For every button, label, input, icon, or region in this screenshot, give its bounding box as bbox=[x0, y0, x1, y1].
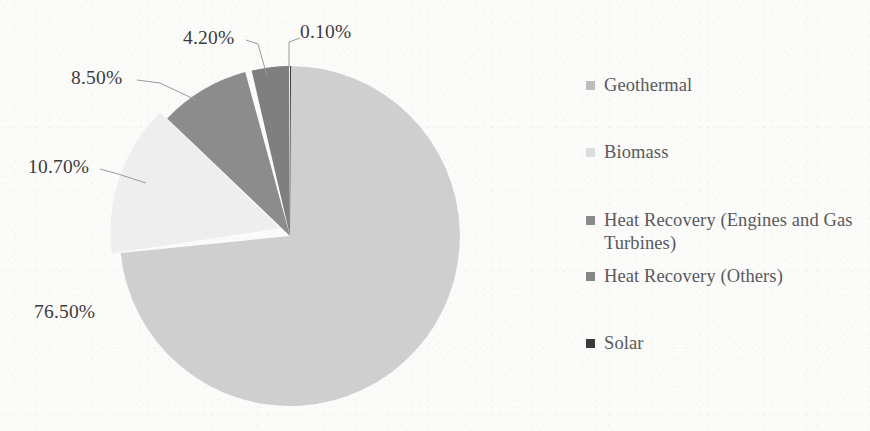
data-label-solar: 0.10% bbox=[300, 22, 351, 42]
chart-legend: Geothermal Biomass Heat Recovery (Engine… bbox=[586, 74, 858, 356]
pie-chart-figure: 0.10% 4.20% 8.50% 10.70% 76.50% Geotherm… bbox=[0, 0, 870, 431]
legend-swatch-icon bbox=[586, 81, 595, 90]
legend-item-biomass[interactable]: Biomass bbox=[586, 141, 858, 164]
pie-chart-plot-area: 0.10% 4.20% 8.50% 10.70% 76.50% bbox=[0, 0, 560, 431]
leader-line-heat-recovery-engines bbox=[137, 80, 196, 100]
data-label-biomass: 10.70% bbox=[28, 157, 89, 177]
legend-label-heat-recovery-others: Heat Recovery (Others) bbox=[604, 265, 783, 288]
pie-chart-svg bbox=[0, 0, 560, 431]
legend-item-geothermal[interactable]: Geothermal bbox=[586, 74, 858, 97]
data-label-heat-recovery-engines: 8.50% bbox=[71, 68, 122, 88]
legend-label-biomass: Biomass bbox=[604, 141, 668, 164]
data-label-heat-recovery-others: 4.20% bbox=[183, 28, 234, 48]
legend-label-heat-recovery-engines: Heat Recovery (Engines and Gas Turbines) bbox=[604, 209, 858, 256]
legend-label-geothermal: Geothermal bbox=[604, 74, 692, 97]
legend-item-heat-recovery-others[interactable]: Heat Recovery (Others) bbox=[586, 265, 858, 288]
legend-swatch-icon bbox=[586, 216, 595, 225]
data-label-geothermal: 76.50% bbox=[34, 302, 95, 322]
legend-swatch-icon bbox=[586, 339, 595, 348]
legend-item-solar[interactable]: Solar bbox=[586, 332, 858, 355]
legend-label-solar: Solar bbox=[604, 332, 644, 355]
legend-swatch-icon bbox=[586, 272, 595, 281]
leader-line-solar bbox=[289, 38, 300, 68]
legend-item-heat-recovery-engines[interactable]: Heat Recovery (Engines and Gas Turbines) bbox=[586, 209, 858, 256]
legend-swatch-icon bbox=[586, 148, 595, 157]
